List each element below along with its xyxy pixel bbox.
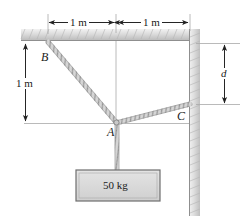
left-vertical-dimension-label: 1 m bbox=[14, 78, 35, 89]
cable-a-block bbox=[115, 123, 119, 171]
top-left-dimension-label: 1 m bbox=[68, 17, 89, 28]
point-label-c: C bbox=[177, 110, 185, 122]
top-right-dimension-label: 1 m bbox=[141, 17, 162, 28]
physics-figure: 1 m 1 m 1 m d B A C 50 kg bbox=[0, 0, 246, 222]
right-vertical-dimension-label: d bbox=[219, 68, 229, 79]
ceiling-support bbox=[21, 29, 193, 41]
block-mass-label: 50 kg bbox=[103, 180, 128, 191]
right-wall-support bbox=[189, 29, 200, 216]
point-label-a: A bbox=[107, 126, 114, 138]
point-label-b: B bbox=[41, 51, 48, 63]
junction-node-a bbox=[114, 120, 119, 125]
cable-ba bbox=[46, 41, 117, 124]
